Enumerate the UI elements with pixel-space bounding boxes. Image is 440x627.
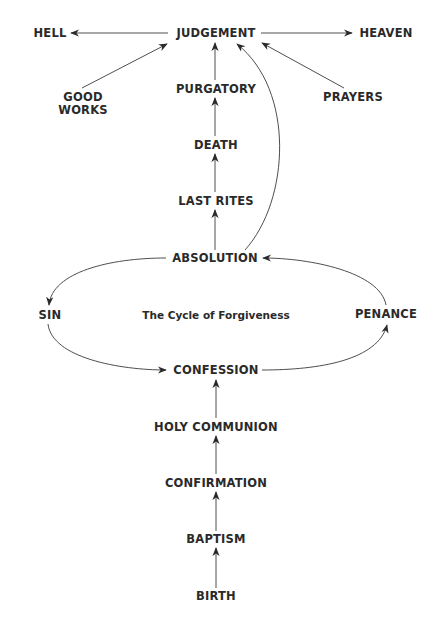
arrow-confession-to-penance [262, 325, 387, 370]
node-absolution: ABSOLUTION [172, 252, 258, 265]
arrow-goodworks-to-judgement [82, 44, 167, 88]
node-confession: CONFESSION [173, 364, 258, 377]
node-good-works: GOOD WORKS [58, 91, 108, 117]
arrow-absolution-to-sin [49, 258, 166, 305]
node-judgement: JUDGEMENT [176, 27, 255, 40]
node-prayers: PRAYERS [323, 91, 383, 104]
node-sin: SIN [39, 309, 62, 322]
node-heaven: HEAVEN [359, 27, 412, 40]
node-birth: BIRTH [196, 590, 236, 603]
node-holy-communion: HOLY COMMUNION [154, 421, 278, 434]
arrow-sin-to-confession [48, 324, 166, 370]
node-last-rites: LAST RITES [178, 195, 253, 208]
node-baptism: BAPTISM [186, 533, 245, 546]
node-purgatory: PURGATORY [176, 83, 256, 96]
node-death: DEATH [194, 139, 238, 152]
node-hell: HELL [34, 27, 67, 40]
node-good-works-line2: WORKS [58, 104, 108, 117]
arrow-absolution-to-judgement [237, 44, 280, 250]
arrow-penance-to-absolution [263, 258, 386, 305]
node-penance: PENANCE [355, 308, 417, 321]
arrow-prayers-to-judgement [262, 43, 344, 88]
diagram-title: The Cycle of Forgiveness [142, 309, 289, 321]
node-confirmation: CONFIRMATION [165, 477, 267, 490]
